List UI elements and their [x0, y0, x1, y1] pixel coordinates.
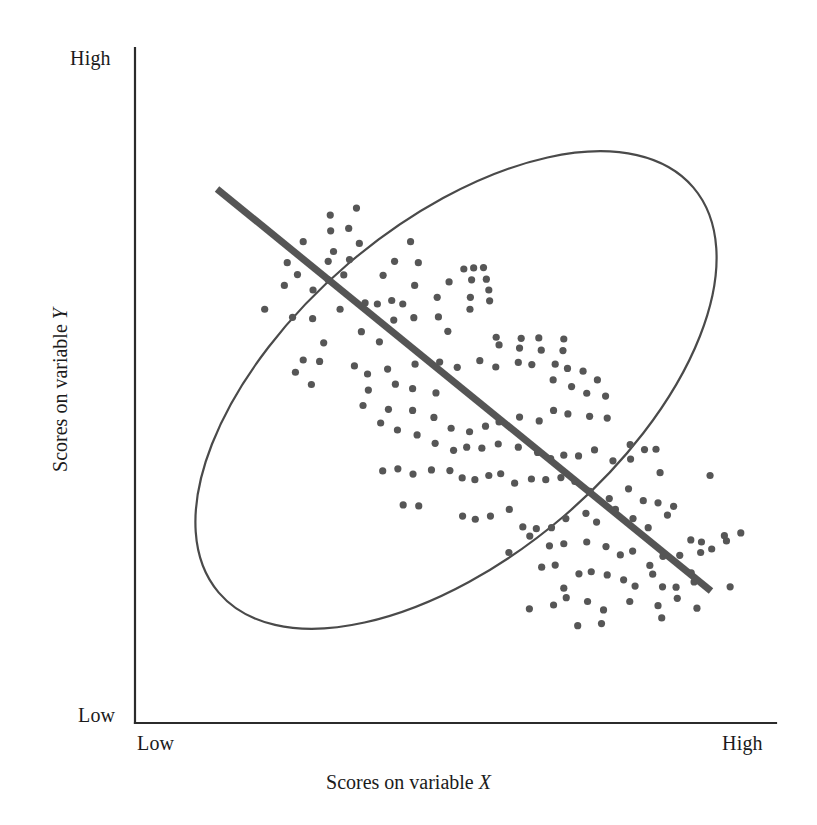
scatter-point: [625, 485, 632, 492]
y-axis-title-text: Scores on variable: [49, 319, 71, 472]
scatter-point: [516, 413, 523, 420]
scatter-point: [519, 523, 526, 530]
scatter-point: [377, 419, 384, 426]
scatter-point: [550, 376, 557, 383]
scatter-point: [409, 407, 416, 414]
scatter-point: [492, 363, 499, 370]
scatter-point: [459, 474, 466, 481]
scatter-point: [487, 513, 494, 520]
scatter-point: [316, 358, 323, 365]
scatter-point: [658, 614, 665, 621]
scatter-point: [687, 536, 694, 543]
scatter-point: [376, 338, 383, 345]
y-axis-title: Scores on variable Y: [50, 210, 70, 570]
scatter-point: [415, 502, 422, 509]
scatter-point: [485, 286, 492, 293]
scatter-point: [409, 385, 416, 392]
scatter-point: [626, 598, 633, 605]
scatter-point: [356, 240, 363, 247]
scatter-point: [654, 499, 661, 506]
scatter-point: [627, 455, 634, 462]
y-axis-variable-symbol: Y: [49, 308, 71, 319]
scatter-point: [470, 264, 477, 271]
scatter-point: [511, 480, 518, 487]
scatter-point: [472, 516, 479, 523]
scatter-point: [409, 471, 416, 478]
scatter-point: [497, 470, 504, 477]
scatter-point: [676, 552, 683, 559]
scatter-point: [261, 306, 268, 313]
scatter-point: [708, 545, 715, 552]
scatter-point: [641, 446, 648, 453]
scatter-point: [579, 368, 586, 375]
scatter-point: [284, 259, 291, 266]
scatter-point: [444, 328, 451, 335]
scatter-point: [448, 425, 455, 432]
scatter-point: [563, 594, 570, 601]
scatter-point: [528, 475, 535, 482]
scatter-point: [609, 457, 616, 464]
scatter-point: [394, 426, 401, 433]
scatter-point: [560, 335, 567, 342]
scatter-point: [560, 452, 567, 459]
scatter-point: [466, 306, 473, 313]
scatter-point: [670, 503, 677, 510]
scatter-point: [468, 276, 475, 283]
scatter-point: [698, 538, 705, 545]
scatter-point: [588, 568, 595, 575]
scatter-point: [516, 345, 523, 352]
scatter-point: [598, 620, 605, 627]
scatter-point: [574, 622, 581, 629]
scatter-point: [379, 467, 386, 474]
x-axis-low-tick-label: Low: [137, 733, 174, 753]
scatter-point: [559, 347, 566, 354]
scatter-point: [300, 238, 307, 245]
scatter-point: [435, 313, 442, 320]
scatter-point: [336, 306, 343, 313]
scatter-point: [327, 227, 334, 234]
scatter-point: [340, 271, 347, 278]
scatter-point: [535, 334, 542, 341]
scatter-point: [380, 272, 387, 279]
scatter-point: [445, 278, 452, 285]
scatter-point: [466, 428, 473, 435]
scatter-point: [294, 271, 301, 278]
scatter-point: [385, 406, 392, 413]
scatter-point: [400, 501, 407, 508]
scatter-point: [575, 452, 582, 459]
scatter-point: [593, 518, 600, 525]
scatter-point: [430, 414, 437, 421]
scatter-point: [606, 495, 613, 502]
scatter-point: [432, 440, 439, 447]
plot-canvas: [0, 0, 817, 825]
scatter-point: [390, 317, 397, 324]
scatter-point: [528, 361, 535, 368]
scatter-point: [560, 585, 567, 592]
scatter-point: [591, 446, 598, 453]
scatter-point: [459, 513, 466, 520]
scatter-point: [428, 466, 435, 473]
scatter-point: [654, 602, 661, 609]
scatter-point: [646, 562, 653, 569]
scatter-point: [327, 212, 334, 219]
scatter-point: [586, 413, 593, 420]
scatter-point: [526, 605, 533, 612]
scatter-point: [471, 476, 478, 483]
scatter-point: [309, 286, 316, 293]
scatter-point: [411, 361, 418, 368]
scatter-point: [308, 381, 315, 388]
scatter-point: [505, 549, 512, 556]
scatter-plot-figure: High Low Low High Scores on variable X S…: [0, 0, 817, 825]
scatter-point: [600, 606, 607, 613]
scatter-point: [486, 297, 493, 304]
scatter-point: [483, 276, 490, 283]
scatter-point: [353, 205, 360, 212]
scatter-point: [583, 390, 590, 397]
scatter-point: [411, 282, 418, 289]
scatter-point: [697, 549, 704, 556]
scatter-point: [394, 465, 401, 472]
scatter-point: [399, 300, 406, 307]
x-axis-high-tick-label: High: [722, 733, 763, 753]
scatter-point: [645, 524, 652, 531]
scatter-point: [564, 365, 571, 372]
